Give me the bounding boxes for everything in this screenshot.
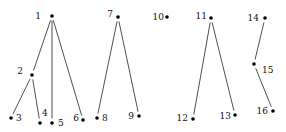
node-9 <box>137 114 141 118</box>
node-7 <box>116 15 120 19</box>
edge-7-8 <box>98 21 117 113</box>
edge-1-2 <box>33 20 50 70</box>
node-label-2: 2 <box>17 66 23 76</box>
node-15 <box>252 62 256 66</box>
edge-2-4 <box>33 79 40 118</box>
node-label-6: 6 <box>73 113 79 123</box>
forest-diagram: 12345678910111213141516 <box>0 0 286 132</box>
node-label-12: 12 <box>177 113 188 123</box>
edge-1-6 <box>53 20 81 115</box>
node-label-14: 14 <box>248 13 260 23</box>
node-label-16: 16 <box>257 106 269 116</box>
node-1 <box>50 14 54 18</box>
node-label-9: 9 <box>128 111 134 121</box>
node-6 <box>81 118 85 122</box>
diagram-canvas: 12345678910111213141516 <box>0 0 286 132</box>
node-14 <box>263 16 267 20</box>
node-16 <box>271 109 275 113</box>
edge-11-12 <box>194 22 210 114</box>
node-label-7: 7 <box>107 9 113 19</box>
node-label-3: 3 <box>16 113 22 123</box>
node-label-10: 10 <box>153 12 165 22</box>
node-label-5: 5 <box>58 118 64 128</box>
node-11 <box>209 16 213 20</box>
node-13 <box>233 113 237 117</box>
node-label-1: 1 <box>35 11 41 21</box>
node-label-11: 11 <box>196 11 207 21</box>
node-label-4: 4 <box>42 108 48 118</box>
node-12 <box>191 117 195 121</box>
edge-14-15 <box>255 22 264 59</box>
node-2 <box>30 73 34 77</box>
edge-2-3 <box>13 79 30 114</box>
node-label-13: 13 <box>220 111 232 121</box>
edge-11-13 <box>212 22 234 110</box>
node-label-8: 8 <box>102 113 108 123</box>
node-label-15: 15 <box>262 65 274 75</box>
node-4 <box>38 121 42 125</box>
node-3 <box>9 116 13 120</box>
node-8 <box>95 116 99 120</box>
edge-7-9 <box>119 21 138 111</box>
node-5 <box>50 121 54 125</box>
node-10 <box>165 15 169 19</box>
